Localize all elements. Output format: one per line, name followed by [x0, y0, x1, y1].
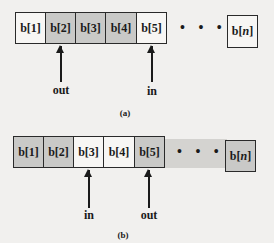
cell-b2: b[2] [45, 12, 76, 44]
cell-bn-prefix: b[ [232, 24, 243, 39]
cell-b2: b[2] [43, 136, 74, 168]
cell-bn: b[n] [227, 15, 258, 48]
in-pointer-label: in [84, 208, 94, 223]
out-pointer-label: out [141, 208, 158, 223]
cell-bn-prefix: b[ [230, 149, 241, 164]
cell-bn-var: n [240, 149, 247, 164]
cell-b5: b[5] [134, 136, 165, 168]
cell-bn-suffix: ] [247, 149, 251, 164]
cell-b1: b[1] [15, 12, 46, 44]
cell-b1: b[1] [13, 136, 44, 168]
cell-bn-suffix: ] [249, 24, 253, 39]
cell-bn: b[n] [225, 140, 256, 172]
caption-b: (b) [118, 230, 129, 240]
cell-b5: b[5] [136, 12, 167, 44]
out-pointer-arrow-icon [60, 46, 62, 82]
cell-b4: b[4] [105, 12, 137, 44]
in-pointer-arrow-icon [88, 170, 90, 208]
cell-b3: b[3] [73, 136, 104, 168]
out-pointer-label: out [53, 83, 70, 98]
in-pointer-label: in [147, 84, 157, 99]
cell-bn-var: n [242, 24, 249, 39]
out-pointer-arrow-icon [148, 170, 150, 208]
caption-a: (a) [120, 108, 131, 118]
in-pointer-arrow-icon [151, 46, 153, 82]
cell-b3: b[3] [75, 12, 106, 44]
cell-b4: b[4] [103, 136, 135, 168]
